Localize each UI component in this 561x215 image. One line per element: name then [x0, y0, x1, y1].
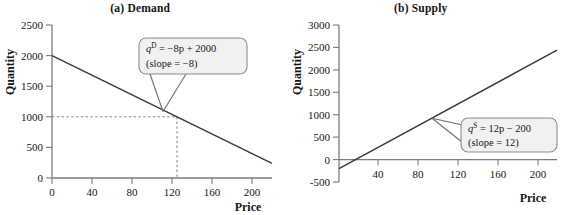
- supply-callout-line2: (slope = 12): [468, 137, 519, 149]
- panel-demand: (a) Demand 2500 2000 1500 1000 500: [0, 0, 281, 215]
- supply-xtick: 160: [489, 168, 506, 180]
- demand-xtick: 0: [49, 186, 55, 198]
- supply-ytick: 1500: [308, 86, 331, 98]
- demand-xtick: 40: [87, 186, 99, 198]
- demand-xtick: 80: [127, 186, 139, 198]
- supply-ytick: 2000: [308, 64, 331, 76]
- panel-supply: (b) Supply 3000 2500 2000: [281, 0, 561, 215]
- supply-x-ticklabels: 40 80 120 160 200: [372, 168, 546, 180]
- demand-x-tickmarks: [52, 178, 252, 184]
- demand-callout-equation: = −8p + 2000: [156, 43, 216, 54]
- demand-callout-line1: qD = −8p + 2000: [146, 42, 216, 54]
- demand-chart-svg: 2500 2000 1500 1000 500 0 0 40 80: [0, 0, 280, 215]
- supply-xtick: 40: [372, 168, 384, 180]
- supply-ytick: -500: [309, 176, 330, 188]
- demand-ytick: 2000: [21, 50, 44, 62]
- supply-x-tickmarks: [378, 160, 538, 166]
- demand-ytick: 2500: [21, 19, 44, 31]
- demand-xaxis-label: Price: [235, 200, 262, 214]
- supply-ytick: 1000: [308, 109, 331, 121]
- supply-xtick: 120: [449, 168, 466, 180]
- supply-callout-line1: qS = 12p − 200: [468, 122, 531, 134]
- demand-xtick: 160: [204, 186, 221, 198]
- demand-y-tickmarks: [46, 25, 52, 178]
- demand-callout-line2: (slope = −8): [146, 58, 198, 70]
- demand-ytick: 1000: [21, 111, 44, 123]
- demand-xtick: 120: [164, 186, 181, 198]
- demand-y-ticklabels: 2500 2000 1500 1000 500 0: [21, 19, 44, 184]
- demand-x-ticklabels: 0 40 80 120 160 200: [49, 186, 261, 198]
- supply-yaxis-label: Quantity: [290, 49, 304, 95]
- supply-ytick: 3000: [308, 19, 331, 31]
- supply-ytick: 500: [313, 131, 330, 143]
- demand-ytick: 0: [38, 172, 44, 184]
- supply-y-tickmarks: [333, 25, 339, 182]
- supply-y-ticklabels: 3000 2500 2000 1500 1000 500 0 -500: [308, 19, 331, 188]
- supply-ytick: 2500: [308, 41, 331, 53]
- supply-xaxis-label: Price: [519, 191, 546, 205]
- supply-ytick: 0: [324, 154, 330, 166]
- demand-xtick: 200: [244, 186, 261, 198]
- supply-xtick: 80: [412, 168, 424, 180]
- supply-xtick: 200: [529, 168, 546, 180]
- supply-chart-svg: 3000 2500 2000 1500 1000 500 0 -500 40 8: [281, 0, 561, 215]
- demand-ytick: 500: [27, 141, 44, 153]
- figure-demand-and-supply: (a) Demand 2500 2000 1500 1000 500: [0, 0, 561, 215]
- demand-yaxis-label: Quantity: [3, 49, 17, 95]
- supply-callout-equation: = 12p − 200: [477, 123, 531, 134]
- demand-ytick: 1500: [21, 80, 44, 92]
